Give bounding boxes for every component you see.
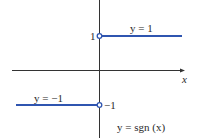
label-upper-line: y = 1 [130,23,153,34]
tick-label-1: 1 [90,31,96,42]
x-axis-label: x [182,74,187,85]
function-label: y = sgn (x) [117,122,165,133]
sign-function-plot [0,0,199,138]
open-circle-upper [97,34,102,39]
open-circle-lower [97,103,102,108]
tick-label-neg1: −1 [104,100,116,111]
x-axis-arrow-icon [180,69,185,73]
label-lower-line: y = −1 [34,93,63,104]
